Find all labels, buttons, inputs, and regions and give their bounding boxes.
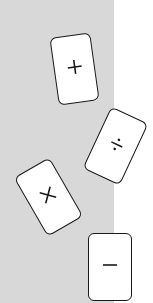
divide-icon — [103, 132, 129, 160]
card-minus[interactable] — [88, 233, 132, 301]
times-icon — [35, 183, 62, 211]
minus-icon — [101, 256, 119, 278]
plus-icon — [64, 57, 85, 81]
